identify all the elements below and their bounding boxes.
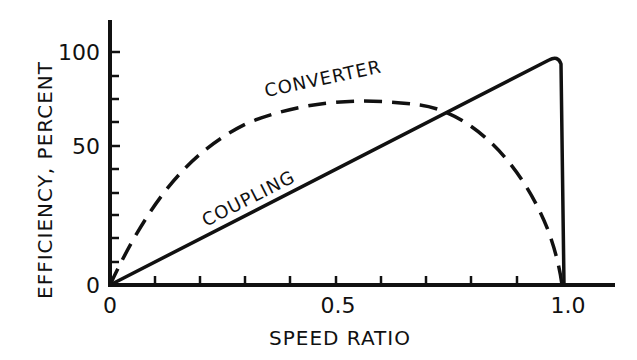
x-tick-0: 0	[103, 293, 117, 318]
y-tick-50: 50	[72, 134, 100, 159]
y-axis-title: EFFICIENCY, PERCENT	[33, 61, 57, 299]
x-axis-title: SPEED RATIO	[269, 326, 411, 350]
coupling-label: COUPLING	[198, 166, 298, 231]
coupling-line	[110, 58, 564, 285]
converter-label: CONVERTER	[262, 56, 383, 101]
efficiency-chart: 100 50 0 0 0.5 1.0 SPEED RATIO EFFICIENC…	[0, 0, 637, 360]
converter-curve	[110, 101, 562, 285]
y-tick-100: 100	[58, 40, 100, 65]
y-tick-0: 0	[86, 273, 100, 298]
x-tick-0-5: 0.5	[321, 293, 356, 318]
x-tick-1-0: 1.0	[551, 293, 586, 318]
